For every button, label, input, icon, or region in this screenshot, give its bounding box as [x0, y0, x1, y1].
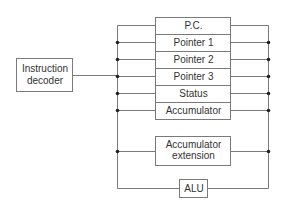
decoder-label-line1: Instruction [17, 63, 73, 75]
register-pointer-3: Pointer 3 [156, 71, 231, 83]
register-pc: P.C. [156, 20, 231, 32]
diagram-lines [0, 0, 289, 205]
register-status: Status [156, 88, 231, 100]
decoder-label-line2: decoder [17, 75, 73, 87]
accumulator-extension-line2: extension [156, 150, 231, 162]
register-pointer-2: Pointer 2 [156, 54, 231, 66]
cpu-register-diagram: Instruction decoder P.C. Pointer 1 Point… [0, 0, 289, 205]
register-accumulator: Accumulator [156, 105, 231, 117]
alu-label: ALU [180, 183, 208, 195]
register-pointer-1: Pointer 1 [156, 37, 231, 49]
